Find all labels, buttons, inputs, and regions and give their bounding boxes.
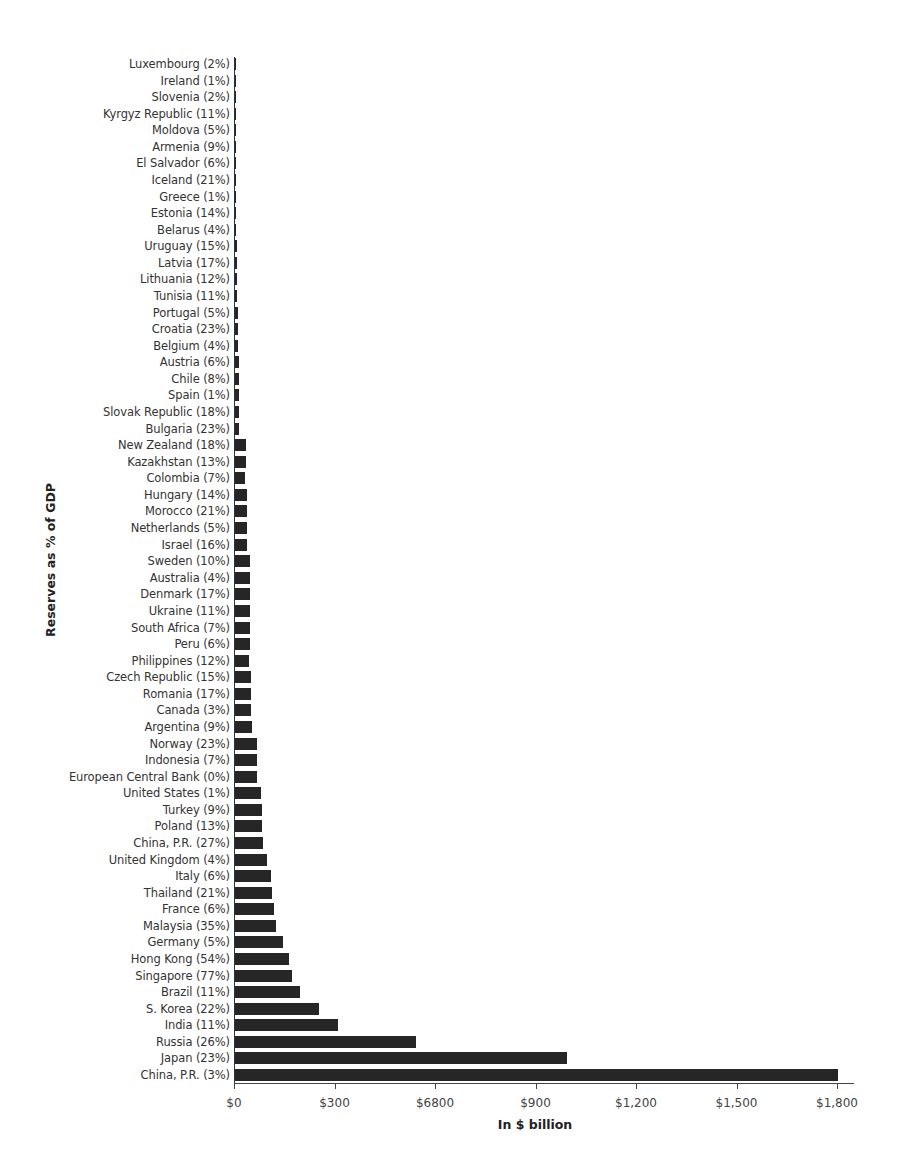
category-label: S. Korea (22%)	[146, 1002, 230, 1016]
x-tick	[636, 1083, 637, 1089]
category-label: Brazil (11%)	[161, 985, 230, 999]
bar	[235, 854, 267, 866]
bar	[235, 191, 236, 203]
category-label: Slovenia (2%)	[151, 90, 230, 104]
bar	[235, 754, 257, 766]
bar	[235, 671, 251, 683]
y-axis-line	[234, 57, 235, 1088]
bar	[235, 804, 262, 816]
bar	[235, 771, 257, 783]
bar	[235, 555, 250, 567]
category-label: European Central Bank (0%)	[69, 770, 230, 784]
x-axis-line	[234, 1083, 854, 1084]
category-label: Denmark (17%)	[140, 587, 230, 601]
category-label: El Salvador (6%)	[136, 156, 230, 170]
x-tick-label: $1,200	[615, 1096, 657, 1110]
category-label: South Africa (7%)	[131, 621, 230, 635]
x-tick-label: $0	[226, 1096, 241, 1110]
category-label: United States (1%)	[123, 786, 230, 800]
category-label: Armenia (9%)	[152, 140, 230, 154]
category-label: Colombia (7%)	[146, 471, 230, 485]
category-label: Chile (8%)	[171, 372, 230, 386]
bar	[235, 1052, 567, 1064]
category-label: Spain (1%)	[168, 388, 230, 402]
bar	[235, 505, 247, 517]
bar	[235, 373, 239, 385]
bar	[235, 986, 300, 998]
bar	[235, 936, 283, 948]
category-label: Russia (26%)	[156, 1035, 230, 1049]
bar	[235, 622, 250, 634]
category-label: Uruguay (15%)	[144, 239, 230, 253]
bar	[235, 224, 236, 236]
bar	[235, 340, 238, 352]
bar	[235, 423, 239, 435]
bar	[235, 1003, 319, 1015]
bar	[235, 688, 251, 700]
category-label: China, P.R. (27%)	[133, 836, 230, 850]
bar	[235, 522, 247, 534]
bar	[235, 307, 238, 319]
category-label: Portugal (5%)	[153, 306, 230, 320]
x-tick	[335, 1083, 336, 1089]
y-axis-title: Reserves as % of GDP	[43, 483, 58, 637]
category-label: Peru (6%)	[174, 637, 230, 651]
category-label: Tunisia (11%)	[154, 289, 230, 303]
bar	[235, 389, 239, 401]
x-tick	[234, 1083, 235, 1089]
category-label: Germany (5%)	[147, 935, 230, 949]
category-label: Netherlands (5%)	[131, 521, 230, 535]
bar	[235, 721, 252, 733]
category-label: Israel (16%)	[162, 538, 230, 552]
bar	[235, 207, 236, 219]
category-label: France (6%)	[162, 902, 230, 916]
category-label: Iceland (21%)	[151, 173, 230, 187]
category-label: Lithuania (12%)	[140, 272, 230, 286]
category-label: Latvia (17%)	[158, 256, 230, 270]
category-label: Croatia (23%)	[152, 322, 230, 336]
bar	[235, 655, 249, 667]
bar	[235, 870, 271, 882]
bar	[235, 439, 246, 451]
category-label: United Kingdom (4%)	[109, 853, 230, 867]
category-label: Japan (23%)	[161, 1051, 230, 1065]
bar	[235, 1036, 416, 1048]
category-label: Greece (1%)	[159, 190, 230, 204]
category-label: Kyrgyz Republic (11%)	[103, 107, 230, 121]
bar	[235, 887, 272, 899]
category-label: Singapore (77%)	[135, 969, 230, 983]
category-label: Malaysia (35%)	[143, 919, 230, 933]
bar	[235, 406, 239, 418]
category-label: Slovak Republic (18%)	[103, 405, 230, 419]
x-tick-label: $1,800	[816, 1096, 858, 1110]
bar	[235, 456, 246, 468]
bar	[235, 953, 289, 965]
x-tick	[435, 1083, 436, 1089]
category-label: Austria (6%)	[160, 355, 230, 369]
category-label: Hungary (14%)	[144, 488, 230, 502]
bar	[235, 273, 237, 285]
bar	[235, 837, 263, 849]
x-tick	[837, 1083, 838, 1089]
bar	[235, 920, 276, 932]
bar	[235, 588, 250, 600]
bar	[235, 539, 247, 551]
category-label: Romania (17%)	[143, 687, 230, 701]
category-label: Philippines (12%)	[132, 654, 230, 668]
bar	[235, 820, 262, 832]
category-label: New Zealand (18%)	[118, 438, 230, 452]
category-label: India (11%)	[165, 1018, 230, 1032]
x-tick-label: $900	[520, 1096, 551, 1110]
category-label: Bulgaria (23%)	[146, 422, 230, 436]
bar	[235, 174, 236, 186]
x-tick	[737, 1083, 738, 1089]
x-tick-label: $300	[319, 1096, 350, 1110]
category-label: Belarus (4%)	[157, 223, 230, 237]
bar	[235, 240, 237, 252]
category-label: Turkey (9%)	[163, 803, 230, 817]
x-tick-label: $6800	[416, 1096, 454, 1110]
category-label: Hong Kong (54%)	[131, 952, 230, 966]
bar	[235, 1069, 838, 1081]
category-label: Canada (3%)	[156, 703, 230, 717]
category-label: Luxembourg (2%)	[129, 57, 230, 71]
